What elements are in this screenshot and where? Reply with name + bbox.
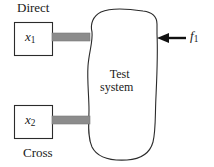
label-test-system-line2: system — [100, 81, 133, 94]
label-x2: x2 — [25, 113, 35, 129]
label-direct: Direct — [17, 1, 49, 15]
connector-bar-lower — [52, 116, 90, 124]
label-x1-subscript: 1 — [31, 35, 36, 45]
label-f1-subscript: 1 — [194, 34, 199, 44]
excitation-arrow-icon — [157, 33, 186, 43]
label-cross: Cross — [23, 146, 53, 160]
test-system-diagram: Direct Cross x1 x2 f1 Test system — [0, 0, 214, 167]
label-test-system-line1: Test — [110, 67, 130, 81]
label-f1: f1 — [190, 29, 198, 45]
label-test-system: Test system — [106, 68, 133, 93]
label-x2-subscript: 2 — [31, 118, 36, 128]
label-x1: x1 — [25, 30, 35, 46]
connector-bar-upper — [52, 33, 90, 41]
